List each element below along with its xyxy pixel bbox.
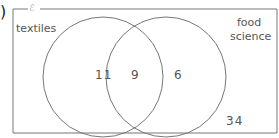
set-circle-food-science (106, 17, 226, 137)
set-label-science: science (230, 30, 271, 43)
region-both: 9 (131, 68, 140, 82)
region-textiles-only: 11 (95, 68, 112, 82)
set-label-textiles: textiles (16, 22, 56, 35)
region-food-science-only: 6 (174, 68, 183, 82)
universal-set-symbol: ℰ (29, 2, 34, 15)
region-neither: 34 (226, 114, 243, 128)
set-label-food: food (237, 16, 261, 29)
